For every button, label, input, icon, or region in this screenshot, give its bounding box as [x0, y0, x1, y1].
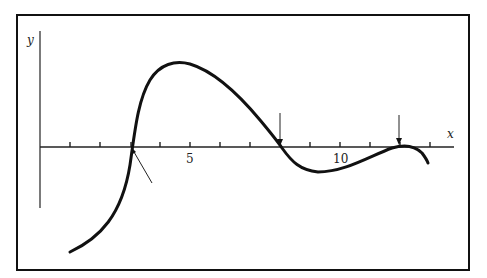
function-curve — [70, 63, 428, 252]
x-axis-ticks — [70, 142, 430, 147]
arrow-tangent-root — [396, 115, 402, 145]
tick-label-5: 5 — [186, 152, 194, 166]
function-graph-figure: y x 5 10 — [0, 0, 487, 278]
arrow-root-2 — [277, 113, 283, 146]
x-axis-label: x — [447, 127, 454, 141]
figure-frame — [17, 15, 469, 270]
arrow-root-1 — [131, 148, 152, 183]
y-axis-label: y — [26, 33, 34, 47]
tick-label-10: 10 — [333, 152, 348, 166]
